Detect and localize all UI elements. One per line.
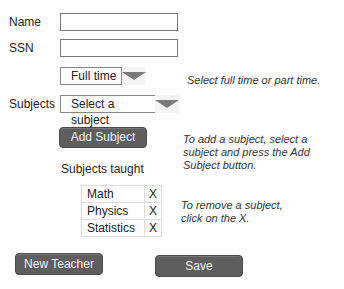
chevron-down-icon	[122, 72, 146, 80]
subject-name: Statistics	[82, 220, 145, 237]
save-button[interactable]: Save	[155, 255, 243, 277]
subjects-label: Subjects	[9, 97, 55, 111]
remove-subject-button[interactable]: X	[145, 220, 162, 237]
name-input[interactable]	[60, 13, 178, 31]
subjects-taught-label: Subjects taught	[61, 162, 144, 176]
subject-name: Math	[82, 186, 145, 203]
new-teacher-button[interactable]: New Teacher	[15, 253, 103, 275]
employment-type-value: Full time	[71, 68, 116, 84]
remove-subject-hint: To remove a subject, click on the X.	[181, 199, 291, 225]
employment-hint: Select full time or part time.	[187, 74, 337, 87]
subject-name: Physics	[82, 203, 145, 220]
add-subject-hint: To add a subject, select a subject and p…	[183, 133, 343, 172]
ssn-input[interactable]	[60, 39, 178, 57]
remove-subject-button[interactable]: X	[145, 186, 162, 203]
table-row: Statistics X	[82, 220, 162, 237]
name-label: Name	[9, 15, 41, 29]
remove-subject-button[interactable]: X	[145, 203, 162, 220]
subjects-taught-table: Math X Physics X Statistics X	[81, 185, 162, 237]
table-row: Physics X	[82, 203, 162, 220]
add-subject-button[interactable]: Add Subject	[59, 127, 147, 148]
subject-dropdown[interactable]: Select a subject	[60, 95, 156, 113]
ssn-label: SSN	[9, 41, 34, 55]
employment-type-dropdown[interactable]: Full time	[60, 67, 122, 85]
subject-dropdown-value: Select a subject	[71, 96, 155, 112]
table-row: Math X	[82, 186, 162, 203]
employment-dropdown-toggle[interactable]	[122, 67, 146, 85]
subject-dropdown-toggle[interactable]	[155, 95, 179, 113]
chevron-down-icon	[155, 100, 179, 108]
